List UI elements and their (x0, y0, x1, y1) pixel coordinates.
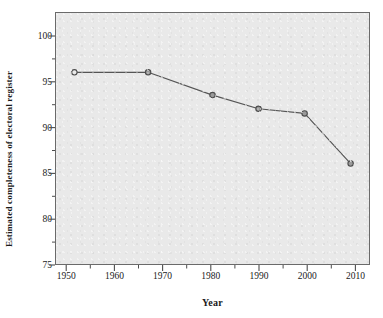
chart-figure: Estimated completeness of electoral regi… (0, 0, 383, 318)
x-tick-label-1960: 1960 (94, 271, 134, 281)
x-tick-label-2000: 2000 (287, 271, 327, 281)
x-tick-label-2010: 2010 (335, 271, 375, 281)
x-tick-label-1950: 1950 (46, 271, 86, 281)
x-tick-label-1990: 1990 (239, 271, 279, 281)
x-tick-label-1970: 1970 (143, 271, 183, 281)
y-axis-minor-ticks (52, 59, 55, 242)
x-tick-label-1980: 1980 (191, 271, 231, 281)
x-axis-title: Year (55, 297, 370, 308)
